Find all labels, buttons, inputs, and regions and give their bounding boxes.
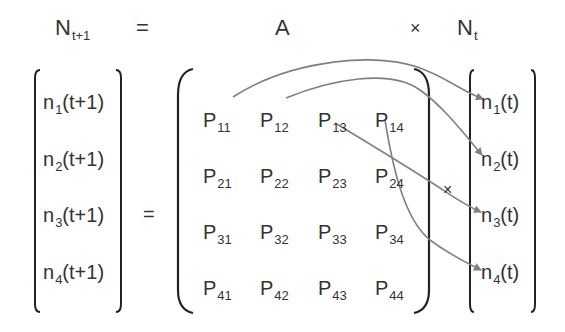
rhs-right-bracket: [531, 70, 535, 312]
rhs-entry: n2(t): [481, 149, 519, 173]
rhs-label: Nt: [457, 17, 478, 42]
matrix-cell: P22: [260, 166, 289, 190]
rhs-entry: n1(t): [481, 92, 519, 116]
arrow-p13-n3: [335, 123, 481, 212]
matrix-cell: P44: [375, 278, 404, 302]
header-times: ×: [410, 19, 421, 37]
lhs-entry: n1(t+1): [43, 92, 104, 116]
matrix-cell: P32: [260, 222, 289, 246]
matrix-cell: P34: [375, 222, 404, 246]
rhs-entry: n3(t): [481, 205, 519, 229]
lhs-entry: n3(t+1): [43, 205, 104, 229]
lhs-entry: n2(t+1): [43, 149, 104, 173]
lhs-entry: n4(t+1): [43, 262, 104, 286]
matrix-cell: P43: [318, 278, 347, 302]
matrix-left-bracket: [178, 69, 193, 313]
header-equals: =: [136, 17, 149, 39]
matrix-cell: P41: [203, 278, 232, 302]
rhs-entry: n4(t): [481, 262, 519, 286]
matrix-cell: P31: [203, 222, 232, 246]
matrix-cell: P21: [203, 166, 232, 190]
matrix-label: A: [275, 17, 290, 39]
matrix-cell: P24: [375, 166, 404, 190]
times-sign: ×: [443, 182, 452, 198]
matrix-cell: P13: [318, 110, 347, 134]
lhs-label: Nt+1: [55, 17, 90, 42]
equals-sign: =: [143, 204, 155, 224]
matrix-cell: P33: [318, 222, 347, 246]
matrix-cell: P23: [318, 166, 347, 190]
matrix-right-bracket: [414, 69, 429, 313]
lhs-right-bracket: [116, 70, 121, 312]
arrow-p14-n4: [385, 120, 481, 270]
matrix-cell: P14: [375, 110, 404, 134]
matrix-cell: P12: [260, 110, 289, 134]
matrix-cell: P42: [260, 278, 289, 302]
lhs-left-bracket: [35, 70, 40, 312]
matrix-cell: P11: [203, 110, 231, 134]
rhs-left-bracket: [470, 70, 474, 312]
